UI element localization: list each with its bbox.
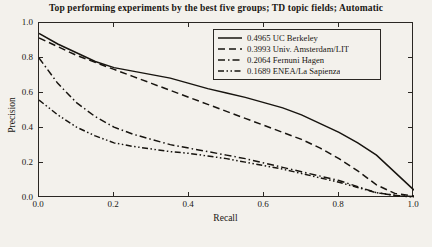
legend-line-sample-2 [217, 44, 243, 54]
y-axis-tick-label: 0.2 [22, 157, 33, 167]
legend-item: 0.1689 ENEA/La Sapienza [217, 65, 377, 76]
y-axis-title: Precision [7, 75, 17, 155]
legend-label: 0.1689 ENEA/La Sapienza [247, 66, 340, 76]
legend-label: 0.3993 Univ. Amsterdam/LIT [247, 44, 349, 54]
legend-item: 0.4965 UC Berkeley [217, 32, 377, 43]
y-axis-tick-label: 0.4 [22, 122, 33, 132]
series-line-4 [39, 100, 414, 197]
x-axis-tick-label: 0.2 [107, 199, 118, 209]
y-axis-tick-label: 1.0 [22, 17, 33, 27]
x-axis-tick-label: 0.6 [257, 199, 268, 209]
legend-label: 0.2064 Fernuni Hagen [247, 55, 324, 65]
x-axis-title: Recall [38, 213, 413, 223]
x-axis-tick-label: 0.4 [182, 199, 193, 209]
y-axis-tick-label: 0.6 [22, 87, 33, 97]
x-axis-tick-label: 1.0 [407, 199, 418, 209]
precision-recall-chart: Top performing experiments by the best f… [0, 0, 432, 247]
legend-line-sample-1 [217, 33, 243, 43]
y-axis-tick-label: 0.8 [22, 52, 33, 62]
x-axis-tick-label: 0.0 [32, 199, 43, 209]
legend-item: 0.2064 Fernuni Hagen [217, 54, 377, 65]
legend-line-sample-3 [217, 55, 243, 65]
legend: 0.4965 UC Berkeley0.3993 Univ. Amsterdam… [213, 29, 381, 80]
legend-line-sample-4 [217, 66, 243, 76]
x-axis-tick-label: 0.8 [332, 199, 343, 209]
chart-title: Top performing experiments by the best f… [0, 3, 432, 13]
y-axis-tick-label: 0.0 [22, 192, 33, 202]
legend-label: 0.4965 UC Berkeley [247, 33, 318, 43]
legend-item: 0.3993 Univ. Amsterdam/LIT [217, 43, 377, 54]
